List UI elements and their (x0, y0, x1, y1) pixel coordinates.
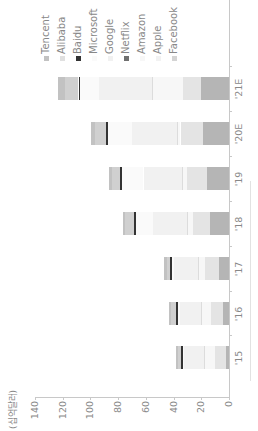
bar-segment-google (132, 123, 176, 146)
bar-segment-tencent (109, 168, 112, 191)
bar-segment-baidu (181, 347, 183, 370)
bar-segment-google (174, 258, 198, 281)
legend-swatch-icon (60, 56, 65, 61)
y-tick-label: 100 (84, 401, 95, 429)
y-tick (35, 397, 36, 400)
bar-segment-alibaba (171, 303, 176, 326)
bar-segment-apple (187, 168, 206, 191)
bar-segment-microsoft (177, 303, 180, 326)
x-tick (229, 335, 232, 336)
y-axis-line (35, 397, 229, 398)
bar-segment-alibaba (112, 168, 120, 191)
y-tick-label: 140 (29, 401, 40, 429)
bar-segment-baidu (134, 213, 136, 236)
bar-segment-google (184, 347, 203, 370)
chart-stage: (십억달러) 020406080100120140 '15'16'17'18'1… (0, 0, 258, 431)
legend-swatch-icon (172, 56, 177, 61)
bar-segment-facebook (201, 78, 229, 101)
bar-segment-alibaba (95, 123, 106, 146)
stacked-bar (0, 123, 258, 146)
x-axis-line (229, 0, 230, 398)
legend-label: Apple (152, 26, 163, 54)
bar-segment-amazon (178, 123, 181, 146)
legend-item-alibaba: Alibaba (56, 17, 67, 61)
legend-swatch-icon (156, 56, 161, 61)
bar-segment-google (180, 303, 201, 326)
stacked-bar (0, 213, 258, 236)
legend-swatch-icon (140, 56, 145, 61)
stacked-bar (0, 258, 258, 281)
bar-segment-microsoft (171, 258, 174, 281)
legend-item-amazon: Amazon (136, 14, 147, 61)
y-tick-label: 40 (168, 401, 179, 429)
bar-segment-facebook (203, 123, 229, 146)
bar-segment-apple (205, 258, 219, 281)
bar-segment-apple (193, 213, 210, 236)
bar-segment-netflix (201, 303, 202, 326)
bar-segment-netflix (152, 78, 153, 101)
bar-segment-apple (215, 347, 226, 370)
y-tick (118, 397, 119, 400)
bar-segment-microsoft (135, 213, 153, 236)
y-tick-label: 0 (223, 401, 234, 429)
bar-segment-microsoft (80, 78, 99, 101)
bar-segment-tencent (164, 258, 167, 281)
legend-label: Alibaba (56, 17, 67, 54)
y-tick (63, 397, 64, 400)
bar-segment-alibaba (65, 78, 79, 101)
legend-swatch-icon (124, 56, 129, 61)
bar-segment-tencent (176, 347, 177, 370)
legend-label: Microsoft (88, 8, 99, 54)
x-tick (229, 111, 232, 112)
category-label: '15 (233, 343, 244, 373)
bar-segment-google (144, 168, 183, 191)
bar-segment-apple (211, 303, 223, 326)
legend-swatch-icon (92, 56, 97, 61)
bar-segment-netflix (177, 123, 178, 146)
category-label: '16 (233, 299, 244, 329)
x-tick (229, 66, 232, 67)
legend-item-google: Google (104, 19, 115, 61)
legend-swatch-icon (76, 56, 81, 61)
legend-swatch-icon (108, 56, 113, 61)
bar-segment-facebook (207, 168, 229, 191)
unit-label: (십억달러) (6, 390, 19, 429)
stacked-bar (0, 303, 258, 326)
bar-segment-amazon (199, 258, 206, 281)
x-tick (229, 201, 232, 202)
bar-segment-amazon (153, 78, 183, 101)
bar-segment-amazon (187, 213, 193, 236)
legend-item-microsoft: Microsoft (88, 8, 99, 61)
y-tick (90, 397, 91, 400)
category-label: '17 (233, 254, 244, 284)
category-label: '18 (233, 209, 244, 239)
legend-item-netflix: Netflix (120, 21, 131, 61)
bar-segment-baidu (170, 258, 172, 281)
legend-label: Netflix (120, 21, 131, 54)
x-tick (229, 246, 232, 247)
bar-segment-tencent (91, 123, 95, 146)
bar-segment-facebook (226, 347, 229, 370)
category-label: '20E (233, 119, 244, 149)
category-label: '21E (233, 74, 244, 104)
bar-segment-microsoft (121, 168, 143, 191)
legend-label: Google (104, 19, 115, 54)
bar-segment-google (153, 213, 186, 236)
bar-segment-baidu (79, 78, 81, 101)
legend-label: Amazon (136, 14, 147, 54)
bar-segment-microsoft (107, 123, 132, 146)
bar-segment-facebook (219, 258, 229, 281)
legend-item-apple: Apple (152, 26, 163, 61)
category-label: '19 (233, 164, 244, 194)
bar-segment-alibaba (125, 213, 134, 236)
bar-segment-baidu (176, 303, 178, 326)
legend-item-baidu: Baidu (72, 26, 83, 61)
bar-segment-apple (183, 78, 201, 101)
x-tick (229, 291, 232, 292)
bar-segment-tencent (58, 78, 65, 101)
bar-segment-alibaba (167, 258, 171, 281)
bar-segment-baidu (106, 123, 108, 146)
bar-segment-apple (181, 123, 203, 146)
source-footnote (250, 181, 251, 381)
legend-item-facebook: Facebook (168, 7, 179, 61)
